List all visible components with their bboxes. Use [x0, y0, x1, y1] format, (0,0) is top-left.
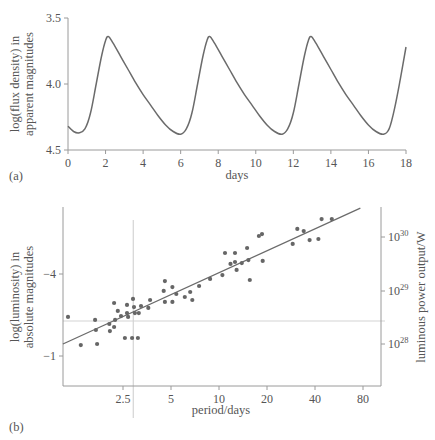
data-point — [223, 251, 227, 255]
data-point — [228, 262, 232, 266]
x-tick-label-a: 12 — [287, 156, 299, 170]
data-point — [112, 325, 116, 329]
x-tick-label-a: 8 — [215, 156, 221, 170]
y-tick-label-left-b: −1 — [43, 349, 56, 363]
x-tick-label-b: 5 — [168, 392, 174, 406]
data-point — [240, 261, 244, 265]
x-tick-label-a: 6 — [178, 156, 184, 170]
x-tick-label-b: 80 — [357, 392, 369, 406]
y-axis-label-right-b: luminous power output/W — [414, 231, 428, 362]
x-axis-ticks-a: 024681012141618 — [65, 150, 412, 170]
y-axis-label-a-line1: log(flux density) in — [8, 35, 22, 132]
data-point — [330, 217, 334, 221]
x-tick-label-a: 4 — [140, 156, 146, 170]
panel-label-b: (b) — [9, 420, 24, 434]
data-point — [108, 329, 112, 333]
y-tick-label-a: 4.0 — [46, 77, 61, 91]
data-point — [107, 322, 111, 326]
period-luminosity-chart: 2.5510204080 −4−1 103010291028 period/da… — [8, 207, 428, 434]
data-point — [190, 298, 194, 302]
data-point — [162, 289, 166, 293]
data-point — [291, 242, 295, 246]
data-point — [235, 268, 239, 272]
data-point — [123, 336, 127, 340]
x-tick-label-a: 10 — [250, 156, 262, 170]
x-tick-label-b: 2.5 — [116, 392, 131, 406]
data-point — [125, 311, 129, 315]
y-tick-label-right-b: 1029 — [388, 282, 409, 298]
data-point — [93, 318, 97, 322]
x-axis-label-b: period/days — [192, 403, 250, 417]
axes-b — [63, 207, 381, 386]
data-point — [261, 259, 265, 263]
panel-label-a: (a) — [9, 169, 23, 183]
data-point — [79, 343, 83, 347]
data-point — [146, 306, 150, 310]
x-tick-label-a: 14 — [325, 156, 337, 170]
data-point — [170, 285, 174, 289]
y-tick-label-right-b: 1030 — [388, 228, 409, 244]
data-point — [183, 295, 187, 299]
data-point — [139, 304, 143, 308]
data-point — [174, 292, 178, 296]
data-point — [220, 273, 224, 277]
data-point — [113, 318, 117, 322]
data-point — [125, 303, 129, 307]
data-point — [197, 284, 201, 288]
data-point — [119, 314, 123, 318]
data-point — [170, 300, 174, 304]
y-axis-label-a-line2: apparent magnitudes — [22, 32, 36, 136]
data-point — [126, 315, 130, 319]
data-point — [66, 315, 70, 319]
data-point — [316, 237, 320, 241]
light-curve-chart: 3.54.04.5 024681012141618 days log(flux … — [8, 11, 412, 183]
data-point — [246, 258, 250, 262]
x-tick-label-a: 2 — [103, 156, 109, 170]
data-point — [131, 297, 135, 301]
y-tick-label-left-b: −4 — [43, 267, 56, 281]
data-point — [320, 217, 324, 221]
data-point — [137, 311, 141, 315]
x-tick-label-a: 16 — [362, 156, 374, 170]
data-point — [95, 342, 99, 346]
reference-lines — [63, 220, 385, 418]
y-axis-label-b-line1: log(luminosity) in — [8, 251, 22, 342]
data-point — [233, 251, 237, 255]
data-point — [136, 336, 140, 340]
y-tick-label-right-b: 1028 — [388, 335, 409, 351]
data-point — [116, 309, 120, 313]
data-point — [302, 229, 306, 233]
x-tick-label-b: 20 — [261, 392, 273, 406]
x-tick-label-a: 0 — [65, 156, 71, 170]
data-point — [260, 232, 264, 236]
y-axis-ticks-a: 3.54.04.5 — [46, 11, 68, 157]
y-axis-ticks-left-b: −4−1 — [43, 267, 63, 363]
y-tick-label-a: 4.5 — [46, 143, 61, 157]
data-point — [163, 279, 167, 283]
x-axis-label-a: days — [226, 168, 249, 182]
data-point — [94, 328, 98, 332]
data-point — [295, 227, 299, 231]
data-point — [163, 300, 167, 304]
data-point — [308, 238, 312, 242]
data-point — [148, 298, 152, 302]
data-point — [133, 311, 137, 315]
y-axis-label-b-line2: absolute magnitudes — [22, 246, 36, 349]
data-point — [188, 290, 192, 294]
data-point — [245, 246, 249, 250]
x-tick-label-b: 40 — [309, 392, 321, 406]
light-curve-line — [68, 36, 406, 134]
y-tick-label-a: 3.5 — [46, 11, 61, 25]
figure: 3.54.04.5 024681012141618 days log(flux … — [0, 0, 435, 440]
x-tick-label-a: 18 — [400, 156, 412, 170]
data-point — [233, 260, 237, 264]
data-point — [248, 278, 252, 282]
data-point — [208, 277, 212, 281]
y-axis-ticks-right-b: 103010291028 — [381, 228, 409, 351]
data-point — [132, 305, 136, 309]
data-point — [112, 301, 116, 305]
data-point — [130, 336, 134, 340]
